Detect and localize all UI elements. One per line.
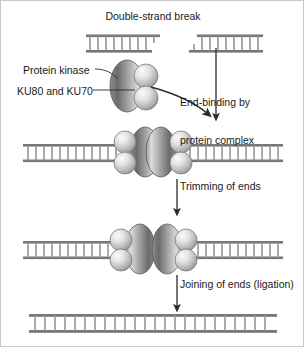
stage1-broken-dna — [86, 35, 263, 53]
ku70-subunit — [175, 249, 197, 271]
ku80-subunit — [175, 229, 197, 251]
step-label-ligation: Joining of ends (ligation) — [180, 278, 294, 291]
figure-title: Double-strand break — [1, 10, 304, 23]
dna-right-trimmed — [188, 241, 283, 259]
dna-left-trimmed — [23, 241, 118, 259]
ku70-subunit — [134, 86, 158, 110]
step-label-trimming: Trimming of ends — [180, 180, 261, 193]
protein-kinase-body — [146, 127, 176, 177]
stage3-trimmed-ends — [23, 224, 283, 274]
dna-left-bound — [23, 144, 123, 162]
ku80-subunit — [114, 131, 136, 153]
ku80-subunit — [110, 229, 132, 251]
protein-complex-free — [110, 60, 158, 112]
ku80-ku70-label: KU80 and KU70 — [17, 85, 93, 98]
protein-complex-stage3-right — [152, 224, 197, 274]
protein-kinase-label: Protein kinase — [23, 64, 90, 77]
nhej-repair-diagram: Double-strand break Protein kinase KU80 … — [0, 0, 304, 347]
dna-fragment-left — [86, 35, 160, 53]
ku70-subunit — [110, 249, 132, 271]
stage4-repaired-dna — [29, 314, 277, 333]
ku80-subunit — [134, 64, 158, 88]
dna-fragment-right — [189, 35, 263, 53]
protein-complex-stage3-left — [110, 224, 155, 274]
diagram-canvas — [1, 1, 304, 347]
ku70-subunit — [114, 152, 136, 174]
step-label-line1: End-binding by — [180, 96, 254, 109]
step-label-end-binding: End-binding by protein complex — [180, 71, 254, 171]
step-label-line2: protein complex — [180, 134, 254, 147]
